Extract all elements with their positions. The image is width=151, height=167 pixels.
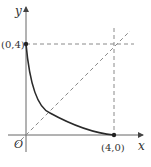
point-4-0 [112,133,116,137]
curve [26,44,114,135]
origin-label: O [14,138,23,151]
point-label-4-0: (4,0) [101,142,125,153]
function-graph: y x O (0,4) (4,0) [0,0,151,167]
point-label-0-4: (0,4) [1,39,25,50]
x-axis-label: x [138,139,145,153]
y-axis-label: y [14,4,22,18]
